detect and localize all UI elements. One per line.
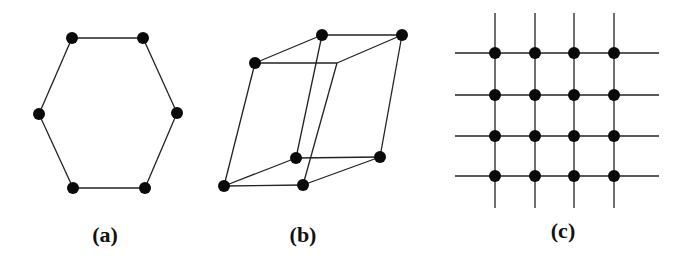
panel-a-edge — [145, 113, 177, 188]
panel-c-label: (c) — [551, 218, 575, 244]
lattice-node — [489, 170, 501, 182]
panel-a-edge — [39, 114, 73, 188]
lattice-node — [568, 89, 580, 101]
panel-b-edge — [337, 35, 402, 63]
lattice-node — [489, 89, 501, 101]
lattice-diagram — [0, 0, 698, 256]
figure-canvas: (a) (b) (c) — [0, 0, 698, 256]
panel-a-node — [137, 32, 149, 44]
panel-a-node — [139, 182, 151, 194]
panel-b-node — [316, 29, 328, 41]
lattice-node — [568, 130, 580, 142]
lattice-node — [608, 47, 620, 59]
lattice-node — [529, 170, 541, 182]
panel-b-edge — [296, 157, 380, 158]
lattice-node — [529, 47, 541, 59]
lattice-node — [608, 89, 620, 101]
lattice-node — [529, 89, 541, 101]
panel-b-edge — [303, 63, 337, 185]
lattice-node — [608, 170, 620, 182]
panel-a-node — [66, 32, 78, 44]
lattice-node — [568, 170, 580, 182]
panel-a-node — [67, 182, 79, 194]
panel-b-edge — [255, 35, 322, 63]
panel-a-node — [33, 108, 45, 120]
panel-b-node — [297, 179, 309, 191]
lattice-node — [489, 47, 501, 59]
lattice-node — [608, 130, 620, 142]
panel-b-edge — [303, 157, 380, 185]
panel-b-node — [374, 151, 386, 163]
panel-b-label: (b) — [290, 222, 317, 248]
panel-b-edge — [380, 35, 402, 157]
panel-a-label: (a) — [92, 222, 118, 248]
panel-b-node — [249, 57, 261, 69]
panel-a-node — [171, 107, 183, 119]
panel-b-edge — [224, 63, 255, 186]
panel-a-edge — [39, 38, 72, 114]
panel-b-edge — [224, 158, 296, 186]
lattice-node — [529, 130, 541, 142]
panel-b-node — [290, 152, 302, 164]
panel-b-node — [396, 29, 408, 41]
lattice-node — [568, 47, 580, 59]
panel-b-edge — [296, 35, 322, 158]
panel-b-node — [218, 180, 230, 192]
panel-a-edge — [143, 38, 177, 113]
lattice-node — [489, 130, 501, 142]
panel-b-edge — [224, 185, 303, 186]
